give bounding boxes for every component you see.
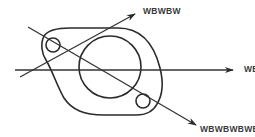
arrow-lower-label: WBWBWBWBW [200, 125, 255, 134]
arrow-horizontal-label: WBWBW [244, 65, 255, 74]
arrow-upper [20, 14, 135, 77]
bolt-hole-lower-right [136, 94, 150, 108]
flange-outline [42, 28, 162, 115]
flange-diagram [0, 0, 255, 137]
center-hole [79, 36, 141, 98]
arrow-upper-label: WBWBW [143, 7, 181, 16]
